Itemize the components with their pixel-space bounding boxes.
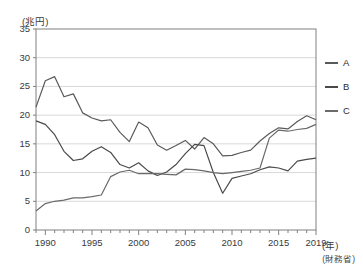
x-tick-label: 1990 (25, 237, 65, 248)
x-axis-tick-marks (36, 230, 316, 235)
line-chart (0, 0, 363, 273)
legend-swatch-icon (325, 62, 338, 64)
x-tick-label: 1995 (72, 237, 112, 248)
y-tick-label: 30 (6, 52, 30, 63)
legend-label: C (343, 106, 350, 116)
legend-item-C: C (325, 103, 350, 119)
legend-swatch-icon (325, 86, 338, 88)
series-line-B (36, 121, 316, 193)
y-tick-label: 20 (6, 109, 30, 120)
legend-item-A: A (325, 55, 350, 71)
legend-label: A (343, 58, 349, 68)
x-tick-label: 2010 (212, 237, 252, 248)
legend-swatch-icon (325, 110, 338, 112)
y-tick-label: 10 (6, 167, 30, 178)
y-tick-label: 5 (6, 195, 30, 206)
y-tick-label: 25 (6, 80, 30, 91)
legend-label: B (343, 82, 349, 92)
source-note: (財務省) (322, 252, 355, 264)
x-axis-unit-label: (年) (322, 238, 338, 252)
plot-frame (36, 29, 316, 230)
y-tick-label: 35 (6, 23, 30, 34)
x-tick-label: 2005 (165, 237, 205, 248)
y-tick-label: 0 (6, 224, 30, 235)
y-tick-label: 15 (6, 138, 30, 149)
x-tick-label: 2000 (119, 237, 159, 248)
legend: ABC (325, 55, 350, 127)
legend-item-B: B (325, 79, 350, 95)
x-tick-label: 2015 (259, 237, 299, 248)
